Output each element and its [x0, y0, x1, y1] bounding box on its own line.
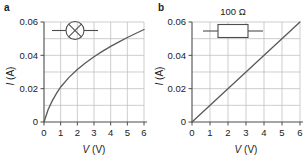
resistor-icon	[203, 25, 263, 38]
svg-text:0.04: 0.04	[168, 50, 187, 61]
svg-text:6: 6	[297, 127, 302, 138]
svg-text:1: 1	[58, 127, 63, 138]
svg-text:0: 0	[189, 127, 194, 138]
panel-a-yaxis-title: I (A)	[5, 67, 16, 86]
svg-text:3: 3	[91, 127, 96, 138]
svg-text:0.02: 0.02	[168, 83, 187, 94]
panel-b-xaxis-title: V (V)	[235, 144, 258, 155]
svg-text:5: 5	[125, 127, 130, 138]
panel-a-xtick-labels: 0 1 2 3 4 5 6	[41, 127, 146, 138]
panel-a-ytick-labels: 0 0.02 0.04 0.06	[20, 16, 39, 127]
panel-a-plot: 0 1 2 3 4 5 6 0 0.02 0.04 0.06 V (V) I (…	[0, 0, 154, 163]
panel-b-plot: 100 Ω 0 1 2 3 4 5 6 0 0.02 0.04 0.06	[154, 0, 308, 163]
panel-b-ytick-labels: 0 0.02 0.04 0.06	[168, 16, 187, 127]
svg-text:4: 4	[261, 127, 266, 138]
svg-text:6: 6	[141, 127, 146, 138]
panel-a-xaxis-title: V (V)	[83, 144, 106, 155]
svg-text:0: 0	[41, 127, 46, 138]
svg-text:2: 2	[75, 127, 80, 138]
resistor-value-label: 100 Ω	[220, 6, 246, 17]
svg-text:4: 4	[108, 127, 113, 138]
panel-a: a	[0, 0, 154, 163]
svg-text:0: 0	[181, 116, 186, 127]
panel-b-yaxis-title: I (A)	[154, 67, 165, 86]
panel-b: b	[154, 0, 308, 163]
svg-text:5: 5	[279, 127, 284, 138]
lamp-icon	[52, 22, 98, 40]
svg-text:0.06: 0.06	[168, 16, 187, 27]
panel-b-xtick-labels: 0 1 2 3 4 5 6	[189, 127, 302, 138]
svg-text:2: 2	[225, 127, 230, 138]
svg-text:1: 1	[207, 127, 212, 138]
svg-text:3: 3	[243, 127, 248, 138]
iv-characteristic-figure: a	[0, 0, 308, 163]
svg-text:0.02: 0.02	[20, 83, 39, 94]
svg-text:0: 0	[33, 116, 38, 127]
svg-text:0.06: 0.06	[20, 16, 39, 27]
svg-text:0.04: 0.04	[20, 50, 39, 61]
